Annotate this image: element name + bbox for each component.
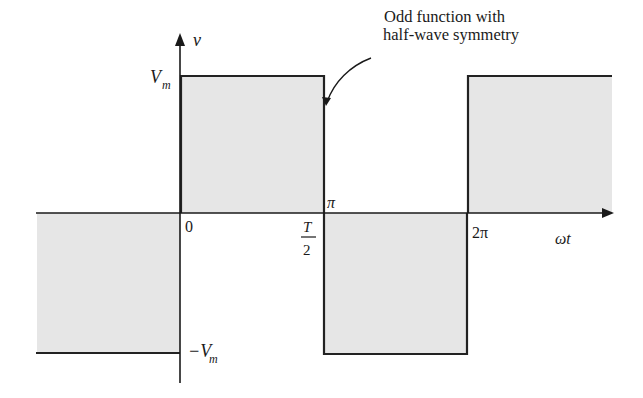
origin-label: 0 xyxy=(185,218,193,235)
annotation-line-2: half-wave symmetry xyxy=(383,25,520,44)
half-period-denominator: 2 xyxy=(303,242,311,258)
positive-half-cycle-1 xyxy=(181,76,324,213)
x-axis-label: ωt xyxy=(555,230,571,247)
y-axis-label: v xyxy=(193,30,201,50)
pi-label: π xyxy=(327,194,336,211)
square-wave-diagram: Odd function with half-wave symmetry v ω… xyxy=(0,0,643,398)
vm-subscript: m xyxy=(162,78,171,92)
annotation-arrow xyxy=(327,58,371,102)
neg-vm-subscript: m xyxy=(209,352,218,366)
negative-half-cycle-2 xyxy=(324,213,467,354)
annotation-line-1: Odd function with xyxy=(384,7,506,26)
negative-half-cycle-left xyxy=(37,213,180,353)
positive-half-cycle-2 xyxy=(468,76,612,213)
y-axis-arrow-icon xyxy=(175,33,185,46)
two-pi-label: 2π xyxy=(472,224,488,241)
half-period-numerator: T xyxy=(303,219,313,235)
half-period-label: T 2 xyxy=(301,219,316,258)
